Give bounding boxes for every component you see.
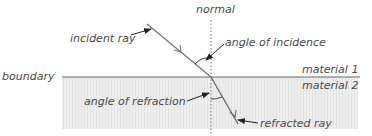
refracted-ray-label: refracted ray (260, 117, 332, 130)
angle-of-refraction-label: angle of refraction (84, 95, 186, 108)
angle-of-incidence-arc (195, 58, 211, 64)
refraction-diagram: normal incident ray angle of incidence b… (0, 0, 372, 136)
angle-of-incidence-pointer-arrow (206, 44, 224, 60)
boundary-label: boundary (2, 70, 55, 83)
angle-of-incidence-label: angle of incidence (225, 36, 326, 49)
incident-ray-label: incident ray (70, 32, 136, 45)
normal-label: normal (196, 3, 235, 16)
incident-ray (147, 24, 211, 77)
material-2-label: material 2 (302, 79, 358, 92)
material-1-label: material 1 (302, 63, 358, 76)
